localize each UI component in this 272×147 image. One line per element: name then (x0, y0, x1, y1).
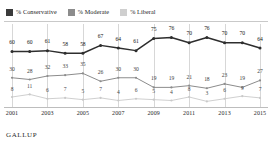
x-tick-2007: 2007 (112, 110, 124, 116)
data-point (259, 47, 262, 50)
value-label: 4 (170, 90, 173, 96)
data-point (82, 72, 84, 74)
value-label: 32 (45, 65, 50, 71)
x-tick-2015: 2015 (254, 110, 266, 116)
data-point (117, 99, 119, 101)
legend-item-conservative: % Conservative (6, 9, 57, 16)
data-point (46, 98, 48, 100)
value-label: 7 (99, 88, 102, 94)
data-point (206, 87, 208, 89)
value-label: 19 (169, 77, 174, 83)
value-label: 23 (222, 73, 227, 79)
value-label: 5 (152, 90, 155, 96)
value-label: 26 (98, 71, 103, 77)
value-label: 9 (241, 86, 244, 92)
data-point (152, 37, 155, 40)
data-point (11, 96, 13, 98)
value-label: 70 (186, 32, 191, 38)
data-point (170, 99, 172, 101)
x-tick-2009: 2009 (148, 110, 160, 116)
value-label: 19 (240, 77, 245, 83)
data-point (117, 47, 120, 50)
value-label: 28 (27, 69, 32, 75)
data-point (117, 77, 119, 79)
value-label: 27 (257, 70, 262, 76)
value-label: 64 (116, 37, 121, 43)
data-point (135, 98, 137, 100)
legend-item-liberal: % Liberal (120, 9, 155, 16)
value-label: 18 (204, 78, 209, 84)
data-point (81, 52, 84, 55)
plot-area: 6060615858676461757670767070643028323335… (4, 24, 268, 108)
data-point (82, 99, 84, 101)
data-point (259, 97, 261, 99)
chart-container: % Conservative % Moderate % Liberal 6060… (0, 0, 272, 147)
data-point (241, 41, 244, 44)
value-label: 61 (133, 40, 138, 46)
value-label: 30 (9, 67, 14, 73)
data-point (259, 79, 261, 81)
legend-item-moderate: % Moderate (68, 9, 109, 16)
x-tick-2005: 2005 (77, 110, 89, 116)
value-label: 75 (151, 27, 156, 33)
data-point (223, 41, 226, 44)
data-point (64, 52, 67, 55)
value-label: 60 (27, 40, 32, 46)
value-label: 7 (64, 88, 67, 94)
data-point (29, 78, 31, 80)
value-label: 30 (116, 67, 121, 73)
value-label: 3 (205, 91, 208, 97)
value-label: 21 (186, 75, 191, 81)
value-label: 70 (222, 32, 227, 38)
value-label: 8 (11, 87, 14, 93)
legend-label-conservative: % Conservative (16, 9, 57, 15)
data-point (11, 50, 14, 53)
legend-divider (4, 21, 268, 22)
value-label: 58 (62, 42, 67, 48)
legend-swatch-conservative (6, 9, 13, 16)
value-label: 19 (151, 77, 156, 83)
legend-label-liberal: % Liberal (130, 9, 155, 15)
data-point (99, 97, 101, 99)
data-point (135, 77, 137, 79)
x-tick-2001: 2001 (6, 110, 18, 116)
value-label: 60 (9, 40, 14, 46)
value-label: 5 (81, 90, 84, 96)
value-label: 7 (259, 88, 262, 94)
data-point (99, 44, 102, 47)
value-label: 8 (188, 87, 191, 93)
value-label: 35 (80, 63, 85, 69)
data-point (205, 36, 208, 39)
data-point (223, 98, 225, 100)
value-label: 70 (240, 32, 245, 38)
data-point (11, 77, 13, 79)
value-label: 64 (257, 37, 262, 43)
value-label: 76 (204, 26, 209, 32)
value-label: 6 (46, 89, 49, 95)
value-label: 11 (27, 84, 32, 90)
x-tick-2003: 2003 (41, 110, 53, 116)
value-label: 4 (117, 90, 120, 96)
x-tick-2011: 2011 (183, 110, 195, 116)
data-point (64, 74, 66, 76)
value-label: 6 (135, 89, 138, 95)
x-tick-2013: 2013 (218, 110, 230, 116)
data-point (188, 41, 191, 44)
data-point (99, 80, 101, 82)
value-label: 67 (98, 34, 103, 40)
chart-legend: % Conservative % Moderate % Liberal (6, 6, 156, 18)
legend-swatch-liberal (120, 9, 127, 16)
data-point (170, 86, 172, 88)
value-label: 30 (133, 67, 138, 73)
data-point (223, 83, 225, 85)
data-point (188, 96, 190, 98)
data-point (46, 49, 49, 52)
legend-label-moderate: % Moderate (78, 9, 109, 15)
value-label: 33 (62, 65, 67, 71)
data-point (153, 99, 155, 101)
source-label: GALLUP (6, 131, 37, 139)
data-point (28, 50, 31, 53)
value-label: 61 (45, 40, 50, 46)
value-label: 6 (223, 89, 226, 95)
data-point (46, 75, 48, 77)
